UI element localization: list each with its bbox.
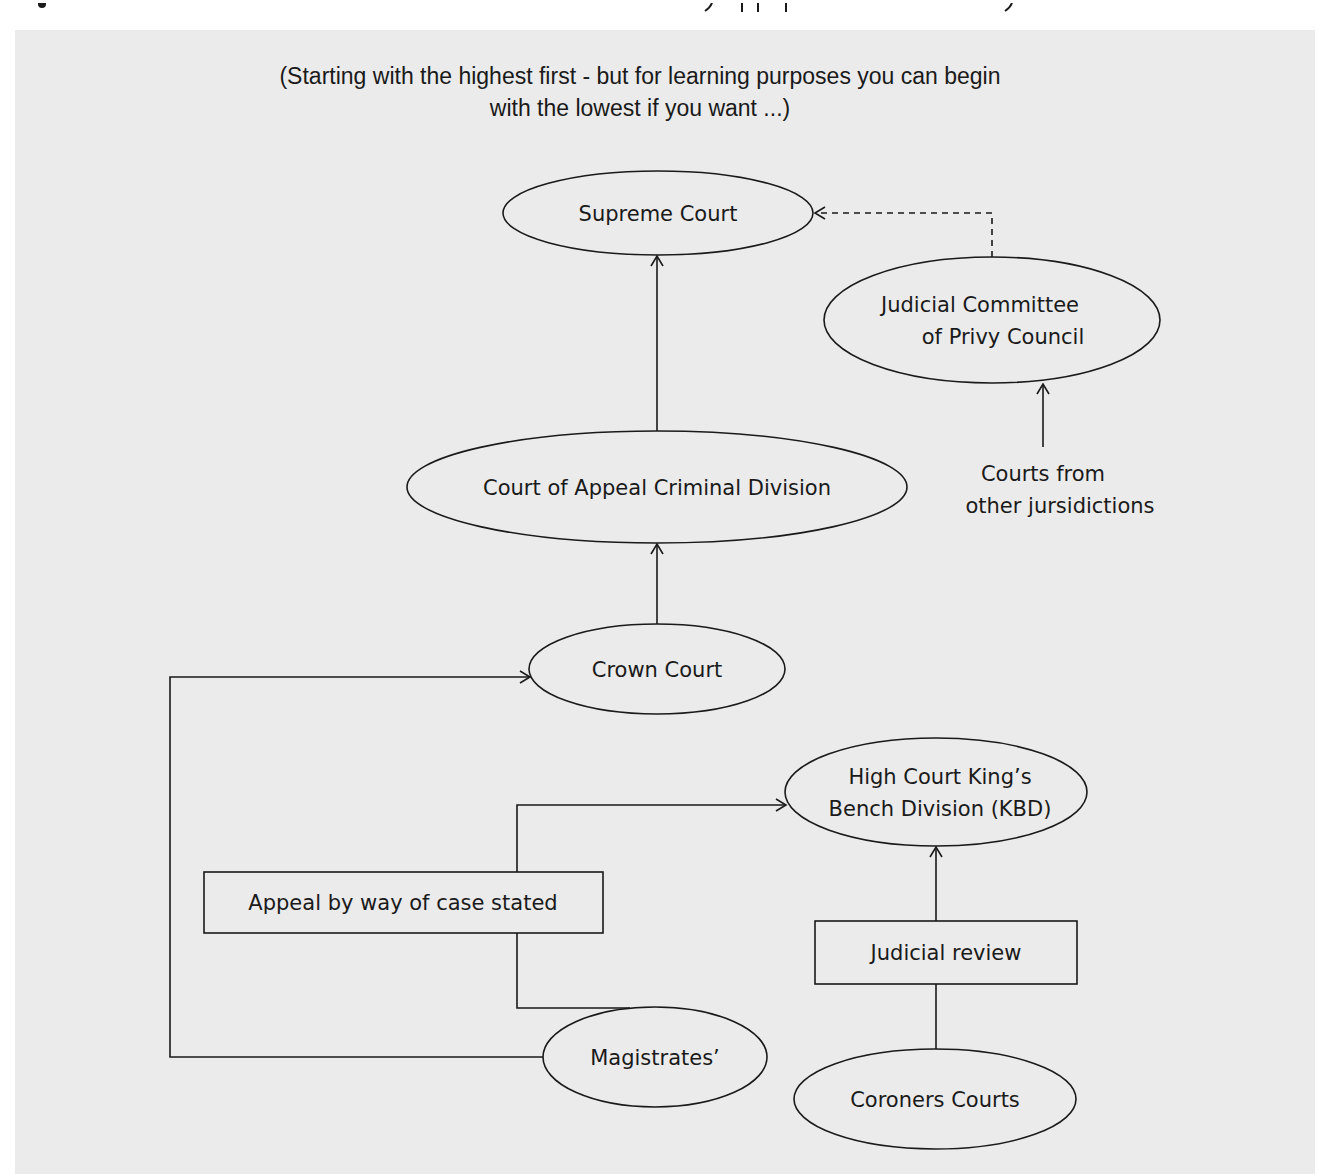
node-label-line-2: of Privy Council bbox=[922, 325, 1085, 349]
node-label: Court of Appeal Criminal Division bbox=[483, 476, 831, 500]
node-label: Coroners Courts bbox=[850, 1088, 1020, 1112]
node-label-line-2: Bench Division (KBD) bbox=[829, 797, 1052, 821]
node-label-line-1: Judicial Committee bbox=[879, 293, 1079, 317]
court-hierarchy-diagram: (Starting with the highest first - but f… bbox=[0, 0, 1339, 1174]
node-crown-court: Crown Court bbox=[529, 624, 785, 714]
ellipse-shape bbox=[824, 257, 1160, 383]
node-judicial-review: Judicial review bbox=[815, 921, 1077, 984]
header-line-2: with the lowest if you want ...) bbox=[489, 95, 790, 121]
node-label: Judicial review bbox=[869, 941, 1022, 965]
node-coroners-courts: Coroners Courts bbox=[794, 1049, 1076, 1149]
node-judicial-committee: Judicial Committee of Privy Council bbox=[824, 257, 1160, 383]
node-supreme-court: Supreme Court bbox=[503, 171, 813, 255]
edge-magistrates-to-crown-court bbox=[170, 677, 543, 1057]
node-label: Crown Court bbox=[592, 658, 723, 682]
node-high-court-kbd: High Court King’s Bench Division (KBD) bbox=[785, 738, 1087, 846]
header-line-1: (Starting with the highest first - but f… bbox=[279, 63, 1000, 89]
header: (Starting with the highest first - but f… bbox=[279, 63, 1000, 121]
edge-judicial-committee-to-supreme-court bbox=[815, 213, 992, 257]
node-appeal-case-stated: Appeal by way of case stated bbox=[204, 872, 603, 933]
node-court-of-appeal: Court of Appeal Criminal Division bbox=[407, 431, 907, 543]
ellipse-shape bbox=[785, 738, 1087, 846]
node-label-line-1: High Court King’s bbox=[848, 765, 1031, 789]
node-label: Supreme Court bbox=[579, 202, 738, 226]
node-label: Magistrates’ bbox=[590, 1046, 720, 1070]
node-label-line-2: other jursidictions bbox=[965, 494, 1154, 518]
node-label-line-1: Courts from bbox=[981, 462, 1105, 486]
node-magistrates: Magistrates’ bbox=[543, 1007, 767, 1107]
node-label: Appeal by way of case stated bbox=[248, 891, 557, 915]
node-other-jurisdictions: Courts from other jursidictions bbox=[965, 462, 1154, 518]
